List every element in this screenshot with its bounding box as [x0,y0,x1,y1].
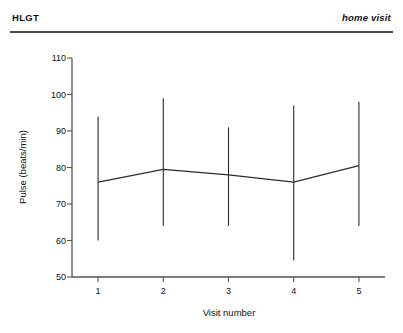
x-tick-label: 4 [291,286,296,296]
y-axis-tick-labels: 5060708090100110 [51,53,66,282]
x-tick-label: 3 [226,286,231,296]
y-tick-label: 60 [56,236,66,246]
x-tick-label: 1 [96,286,101,296]
page-header: HLGT home visit [0,0,403,34]
y-axis-title: Pulse (beats/min) [17,130,28,204]
y-tick-label: 80 [56,163,66,173]
y-tick-label: 50 [56,272,66,282]
header-left-title: HLGT [12,12,39,23]
y-tick-label: 100 [51,90,66,100]
header-right-title: home visit [342,12,391,23]
error-bars [98,98,359,260]
chart-svg: 5060708090100110 12345 Pulse (beats/min)… [0,34,403,333]
x-axis-ticks [98,277,359,282]
x-tick-label: 2 [161,286,166,296]
y-tick-label: 90 [56,126,66,136]
y-tick-label: 70 [56,199,66,209]
y-axis-ticks [67,58,72,277]
chart-page: HLGT home visit 5060708090100110 12345 P… [0,0,403,333]
pulse-line-chart: 5060708090100110 12345 Pulse (beats/min)… [0,34,403,333]
x-axis-title: Visit number [203,307,256,318]
x-axis-tick-labels: 12345 [96,286,362,296]
header-divider [10,31,393,33]
x-tick-label: 5 [356,286,361,296]
y-tick-label: 110 [52,53,66,63]
